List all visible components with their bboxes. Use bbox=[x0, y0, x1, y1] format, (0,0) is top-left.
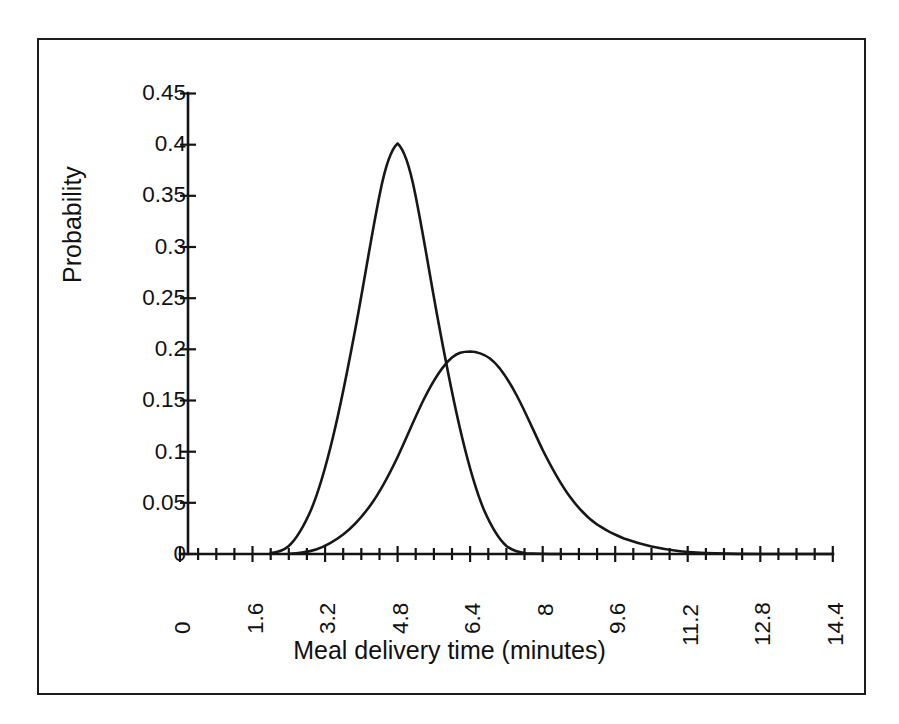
y-tick-label: 0.1 bbox=[66, 441, 186, 464]
y-tick-label: 0.05 bbox=[66, 492, 186, 515]
x-axis-title: Meal delivery time (minutes) bbox=[0, 636, 899, 665]
x-tick-label: 0 bbox=[172, 621, 195, 634]
curve-narrow-distribution bbox=[271, 144, 561, 555]
x-tick-label: 6.4 bbox=[462, 603, 485, 634]
x-tick-label: 1.6 bbox=[245, 603, 268, 634]
x-tick-label: 8 bbox=[535, 603, 558, 616]
y-tick-label: 0.15 bbox=[66, 389, 186, 412]
x-tick-label: 4.8 bbox=[390, 603, 413, 634]
y-axis-title: Probability bbox=[58, 95, 87, 355]
x-tick-label: 9.6 bbox=[607, 603, 630, 634]
x-tick-label: 3.2 bbox=[317, 603, 340, 634]
curve-wide-distribution bbox=[289, 352, 833, 555]
y-tick-label: 0 bbox=[66, 543, 186, 566]
figure-container: 0.45 0.4 0.35 0.3 0.25 0.2 0.15 0.1 0.05… bbox=[0, 0, 899, 724]
